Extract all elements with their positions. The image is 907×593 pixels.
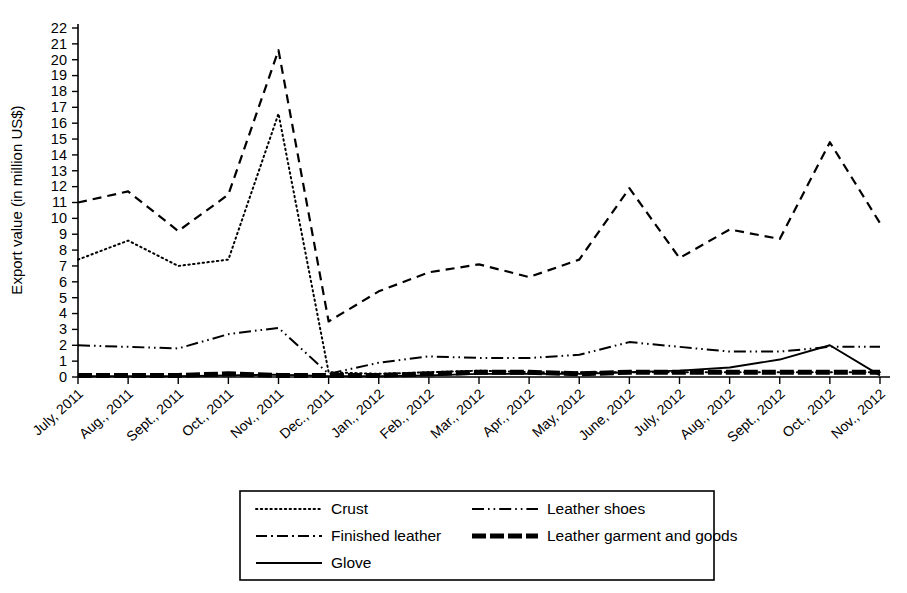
y-tick-label: 18 (51, 83, 67, 99)
y-tick-label: 13 (51, 163, 67, 179)
legend-label: Leather garment and goods (547, 527, 738, 544)
y-tick-label: 3 (59, 321, 67, 337)
legend-label: Leather shoes (547, 500, 645, 517)
legend-label: Crust (331, 500, 369, 517)
series-line-crust (78, 114, 880, 374)
series-line-leather-shoes (78, 328, 880, 374)
x-axis: July, 2011Aug., 2011Sept., 2011Oct., 201… (29, 377, 890, 445)
y-tick-label: 7 (59, 258, 67, 274)
y-tick-label: 22 (51, 20, 67, 36)
legend-label: Glove (331, 554, 372, 571)
y-tick-label: 2 (59, 337, 67, 353)
y-tick-label: 12 (51, 178, 67, 194)
y-tick-label: 11 (52, 194, 67, 210)
y-axis-title: Export value (in million US$) (8, 105, 25, 294)
x-tick-label: Mar., 2012 (427, 385, 487, 441)
x-tick-label: Nov., 2012 (828, 385, 888, 442)
export-value-line-chart: 012345678910111213141516171819202122 Jul… (0, 0, 907, 593)
y-tick-label: 14 (51, 147, 67, 163)
y-tick-label: 17 (51, 99, 67, 115)
series-line-finished-leather (78, 50, 880, 321)
y-tick-label: 6 (59, 274, 67, 290)
y-tick-label: 19 (51, 67, 67, 83)
y-tick-label: 4 (59, 305, 67, 321)
x-tick-label: June, 2012 (575, 385, 637, 443)
y-tick-label: 9 (59, 226, 67, 242)
y-tick-label: 20 (51, 52, 67, 68)
x-tick-label: Dec., 2011 (276, 385, 336, 442)
chart-legend: CrustLeather shoesFinished leatherLeathe… (240, 491, 738, 580)
y-tick-label: 10 (51, 210, 67, 226)
y-tick-label: 16 (51, 115, 67, 131)
series-lines (78, 50, 880, 376)
y-tick-label: 15 (51, 131, 67, 147)
y-tick-label: 8 (59, 242, 67, 258)
x-tick-label: Feb., 2012 (376, 385, 437, 442)
y-tick-label: 0 (59, 369, 67, 385)
y-tick-label: 5 (59, 290, 67, 306)
y-axis: 012345678910111213141516171819202122 (51, 20, 78, 385)
legend-label: Finished leather (331, 527, 441, 544)
chart-canvas: 012345678910111213141516171819202122 Jul… (0, 0, 907, 593)
x-tick-label: Apr., 2012 (479, 385, 537, 440)
y-tick-label: 21 (51, 36, 67, 52)
y-tick-label: 1 (59, 353, 67, 369)
